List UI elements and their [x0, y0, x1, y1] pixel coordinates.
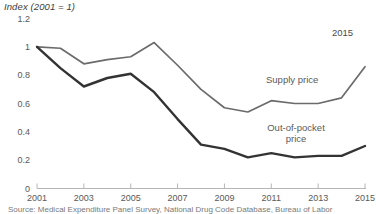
- series-label-out-of-pocket-price: Out-of-pocket price: [250, 122, 342, 144]
- x-axis-tickmarks: [37, 184, 365, 189]
- series-label-supply-price: Supply price: [266, 74, 318, 85]
- oop-label-line-2: price: [286, 133, 307, 144]
- end-year-annotation: 2015: [332, 27, 353, 38]
- x-axis: [37, 184, 366, 189]
- source-note: Source: Medical Expenditure Panel Survey…: [8, 205, 376, 214]
- chart-plot-area: [0, 0, 376, 214]
- chart-figure: Index (2001 = 1) 00.20.40.60.811.2 20012…: [0, 0, 376, 214]
- oop-label-line-1: Out-of-pocket: [267, 122, 325, 133]
